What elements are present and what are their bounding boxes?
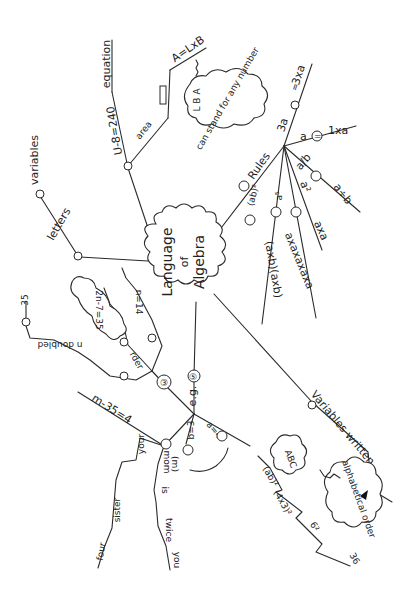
svg-text:a÷b: a÷b [331, 181, 355, 207]
svg-text:(m): (m) [170, 456, 180, 472]
area-label: area [134, 119, 154, 141]
equation-formula: U-8=240 [104, 105, 125, 156]
squiggle-arrow-icon [196, 60, 198, 76]
center-node[interactable]: Language of Algebra [144, 204, 225, 297]
branch-equation[interactable]: U-8=240 equation area A=LxB L B A can st… [100, 33, 268, 170]
rule-item: a² axa [291, 179, 331, 242]
svg-text:=: = [314, 131, 322, 141]
eg-label: e.g. [186, 386, 199, 407]
svg-text:twice: twice [164, 518, 174, 542]
svg-text:③: ③ [160, 378, 168, 388]
svg-text:you: you [172, 552, 182, 569]
area-cloud-letters: L B A [192, 88, 202, 112]
branch-variables-written[interactable]: Variables written alphabetical order ABC [270, 388, 382, 539]
svg-text:35: 35 [20, 294, 30, 305]
bracket-curve [190, 448, 228, 471]
svg-text:1xa: 1xa [328, 124, 348, 137]
svg-text:axaxaxaxa: axaxaxaxa [282, 231, 316, 291]
equation-label: equation [100, 40, 113, 89]
b-equals-3: b=3 [186, 421, 196, 440]
svg-text:your: your [136, 434, 146, 455]
svg-text:(axb)(axb): (axb)(axb) [262, 240, 285, 299]
m-equation: m-35=4 [89, 392, 134, 427]
svg-text:is: is [160, 486, 170, 494]
svg-text:36: 36 [347, 551, 362, 566]
svg-text:four: four [95, 541, 108, 561]
variables-label: variables [28, 135, 41, 185]
svg-text:sister: sister [112, 497, 122, 522]
variables-written-label: Variables written [308, 388, 378, 467]
svg-text:n doubled: n doubled [38, 340, 83, 350]
svg-text:a²: a² [297, 179, 313, 194]
center-label-line1: Language [159, 227, 175, 296]
rule-item: a/b a÷b [293, 151, 355, 207]
mind-map-canvas: Language of Algebra letters variables U-… [0, 0, 414, 603]
rule-item: a = 1xa [300, 124, 348, 143]
branch-example[interactable]: ⑤ e.g. a=4 b=3 (ab)² (4x3)² 6² 36 m-35=4… [20, 277, 362, 569]
svg-text:a⁵: a⁵ [274, 191, 284, 201]
svg-text:3a: 3a [274, 116, 291, 133]
svg-text:axa: axa [311, 219, 331, 243]
area-formula: A=LxB [169, 33, 207, 65]
svg-text:⑤: ⑤ [189, 372, 197, 382]
svg-text:a: a [300, 130, 307, 143]
rectangle-icon [160, 86, 166, 104]
svg-text:rder: rder [128, 350, 146, 371]
svg-text:2n-7=35: 2n-7=35 [94, 290, 104, 329]
letters-label: letters [44, 205, 73, 242]
svg-text:n=14: n=14 [134, 290, 144, 315]
branch-letters[interactable]: letters variables [28, 135, 82, 260]
rule-item: 3a = 3xa [274, 63, 308, 133]
center-label-line2: of [178, 256, 191, 268]
center-label-line3: Algebra [191, 235, 207, 289]
